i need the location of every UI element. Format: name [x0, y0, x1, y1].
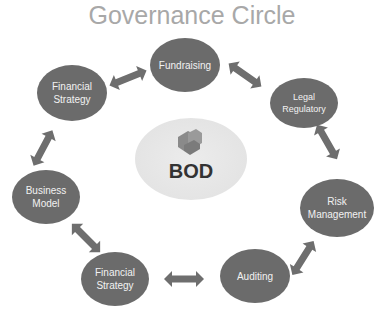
node-label: LegalRegulatory [282, 91, 326, 115]
node-financial-strategy-top: FinancialStrategy [37, 65, 107, 121]
puzzle-pieces-icon [178, 129, 202, 155]
node-label: FinancialStrategy [52, 80, 92, 106]
node-legal-regulatory: LegalRegulatory [270, 78, 338, 128]
node-fundraising: Fundraising [150, 38, 220, 92]
node-business-model: BusinessModel [12, 170, 80, 224]
center-label: BOD [135, 160, 247, 183]
node-label: BusinessModel [26, 184, 67, 210]
node-label: FinancialStrategy [95, 266, 135, 292]
node-auditing: Auditing [220, 249, 290, 303]
node-risk-management: RiskManagement [300, 179, 374, 237]
node-label: RiskManagement [308, 195, 366, 221]
node-financial-strategy-bottom: FinancialStrategy [81, 252, 149, 306]
node-label: Auditing [237, 270, 273, 283]
node-label: Fundraising [159, 59, 211, 72]
